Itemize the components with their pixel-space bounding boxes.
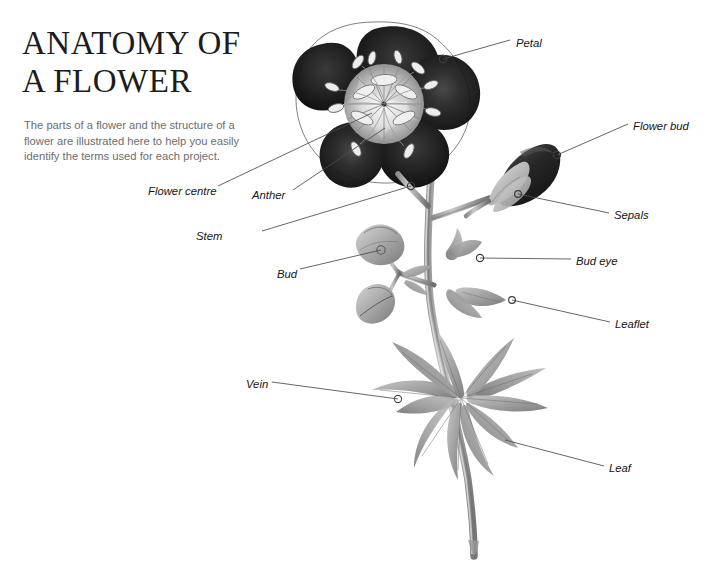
- palmate-leaf: [372, 332, 548, 480]
- label-petal: Petal: [516, 37, 542, 49]
- label-leaf: Leaf: [609, 462, 631, 474]
- left-buds: [356, 225, 432, 324]
- label-vein: Vein: [246, 378, 268, 390]
- label-flower-centre: Flower centre: [148, 185, 216, 197]
- label-sepals: Sepals: [614, 209, 649, 221]
- flower-bud: [466, 144, 560, 216]
- flower-illustration: [0, 0, 709, 572]
- label-stem: Stem: [196, 230, 222, 242]
- anatomy-of-a-flower-page: ANATOMY OF A FLOWER The parts of a flowe…: [0, 0, 709, 572]
- leaflets: [446, 228, 506, 318]
- label-leaflet: Leaflet: [615, 318, 649, 330]
- bud-upper: [356, 225, 404, 266]
- label-anther: Anther: [252, 189, 285, 201]
- label-bud-eye: Bud eye: [576, 255, 617, 267]
- flower-head: [292, 22, 480, 206]
- bud-lower: [356, 284, 395, 324]
- label-flower-bud: Flower bud: [633, 120, 689, 132]
- label-bud: Bud: [277, 268, 297, 280]
